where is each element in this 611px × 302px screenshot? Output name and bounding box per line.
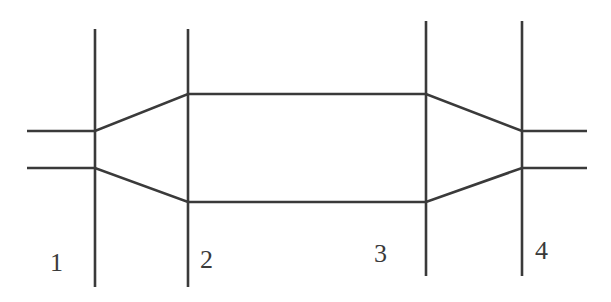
section-label-3: 3 [374,239,387,268]
lower-duct-wall [27,168,587,202]
section-label-4: 4 [535,236,548,265]
duct-diagram: 1 2 3 4 [0,0,611,302]
section-label-1: 1 [50,248,63,277]
section-lines [95,21,522,287]
upper-duct-wall [27,94,587,131]
section-label-2: 2 [200,245,213,274]
section-labels: 1 2 3 4 [50,236,548,277]
